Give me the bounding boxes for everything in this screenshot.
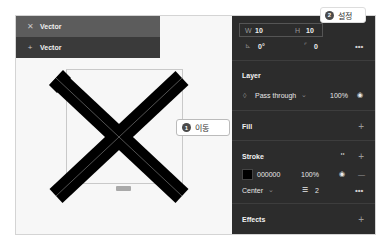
stroke-weight-icon: ☰ bbox=[302, 186, 308, 194]
layer-section-title: Layer bbox=[242, 72, 261, 79]
effects-section-title: Effects bbox=[242, 216, 265, 223]
stroke-position-select[interactable]: Center bbox=[242, 187, 263, 194]
layers-list: ✕ Vector + Vector bbox=[16, 16, 160, 58]
stroke-section-title: Stroke bbox=[242, 153, 264, 160]
stroke-opacity-input[interactable]: 100% bbox=[301, 171, 319, 178]
canvas[interactable]: ✕ Vector + Vector 1 이동 bbox=[16, 16, 232, 234]
divider bbox=[232, 110, 375, 111]
height-label: H bbox=[295, 27, 300, 34]
width-label: W bbox=[245, 27, 252, 34]
layer-item-vector-selected[interactable]: ✕ Vector bbox=[16, 16, 160, 37]
stroke-color-swatch[interactable] bbox=[242, 169, 253, 180]
dimensions-field-group: W 10 H 10 bbox=[239, 23, 323, 37]
stroke-more-options-icon[interactable]: ••• bbox=[355, 186, 363, 195]
divider bbox=[232, 60, 375, 61]
app-frame: ✕ Vector + Vector 1 이동 bbox=[15, 15, 376, 235]
callout-text: 이동 bbox=[195, 122, 209, 133]
corner-radius-input[interactable]: 0 bbox=[314, 43, 318, 50]
size-label bbox=[116, 186, 131, 191]
stroke-color-row: 000000 100% ◉ — bbox=[232, 168, 375, 180]
callout-set: 2 설정 bbox=[320, 7, 366, 23]
divider bbox=[232, 203, 375, 204]
step-number-badge: 1 bbox=[182, 123, 191, 132]
chevron-down-icon: ⌄ bbox=[301, 91, 307, 99]
blend-mode-select[interactable]: Pass through bbox=[255, 92, 296, 99]
add-stroke-icon[interactable]: + bbox=[358, 152, 364, 162]
vector-plus-icon: + bbox=[25, 43, 35, 52]
remove-stroke-icon[interactable]: — bbox=[358, 171, 365, 178]
callout-move: 1 이동 bbox=[176, 119, 230, 136]
vector-x-icon: ✕ bbox=[25, 22, 35, 31]
more-options-icon[interactable]: ••• bbox=[355, 42, 363, 51]
width-input[interactable]: 10 bbox=[255, 27, 263, 34]
layer-label: Vector bbox=[40, 23, 61, 30]
stroke-color-input[interactable]: 000000 bbox=[257, 171, 280, 178]
layer-item-vector[interactable]: + Vector bbox=[16, 37, 160, 58]
rotation-icon: ⊾ bbox=[245, 42, 251, 50]
blend-drop-icon: ◊ bbox=[243, 92, 246, 99]
properties-panel: W 10 H 10 ⊾ 0° ⌜ 0 ••• Layer ◊ Pass thro… bbox=[232, 16, 375, 234]
divider bbox=[232, 140, 375, 141]
eye-icon[interactable]: ◉ bbox=[357, 91, 363, 99]
add-fill-icon[interactable]: + bbox=[358, 122, 364, 132]
stroke-weight-input[interactable]: 2 bbox=[315, 187, 319, 194]
callout-text: 설정 bbox=[338, 10, 352, 21]
height-input[interactable]: 10 bbox=[306, 27, 314, 34]
layer-opacity-input[interactable]: 100% bbox=[330, 92, 348, 99]
stroke-position-row: Center ⌄ ☰ 2 ••• bbox=[232, 184, 375, 196]
fill-section-title: Fill bbox=[242, 123, 252, 130]
rotation-radius-row: ⊾ 0° ⌜ 0 ••• bbox=[232, 40, 375, 52]
layer-blend-row: ◊ Pass through ⌄ 100% ◉ bbox=[232, 89, 375, 101]
step-number-badge: 2 bbox=[325, 11, 334, 20]
chevron-down-icon: ⌄ bbox=[268, 186, 274, 194]
rotation-input[interactable]: 0° bbox=[258, 43, 265, 50]
corner-radius-icon: ⌜ bbox=[304, 42, 307, 50]
add-effect-icon[interactable]: + bbox=[358, 215, 364, 225]
stroke-style-grid-icon[interactable]: ⠛ bbox=[340, 152, 345, 160]
layer-label: Vector bbox=[40, 44, 61, 51]
eye-icon[interactable]: ◉ bbox=[339, 170, 345, 178]
